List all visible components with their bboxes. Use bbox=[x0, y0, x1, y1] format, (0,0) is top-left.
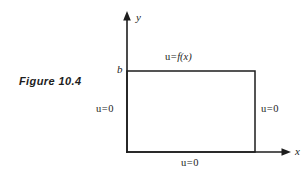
x-axis-arrowhead bbox=[282, 148, 292, 156]
boundary-bottom-value: 0 bbox=[193, 157, 198, 168]
boundary-label-right: u=0 bbox=[261, 104, 278, 115]
boundary-top-value: f(x) bbox=[177, 51, 192, 62]
boundary-right-value: 0 bbox=[273, 103, 278, 114]
diagram-canvas bbox=[0, 0, 308, 182]
figure-container: Figure 10.4 u=f(x) u=0 u=0 u=0 b y x bbox=[0, 0, 308, 182]
boundary-label-top: u=f(x) bbox=[165, 52, 192, 63]
boundary-label-left: u=0 bbox=[96, 104, 113, 115]
x-axis-label: x bbox=[295, 146, 300, 157]
y-axis-label: y bbox=[136, 12, 141, 23]
y-axis-arrowhead bbox=[123, 11, 131, 21]
figure-caption: Figure 10.4 bbox=[19, 76, 81, 87]
boundary-left-value: 0 bbox=[108, 103, 113, 114]
domain-rectangle bbox=[127, 71, 255, 152]
boundary-label-bottom: u=0 bbox=[181, 158, 198, 169]
y-axis-tick-label-b: b bbox=[117, 64, 123, 75]
